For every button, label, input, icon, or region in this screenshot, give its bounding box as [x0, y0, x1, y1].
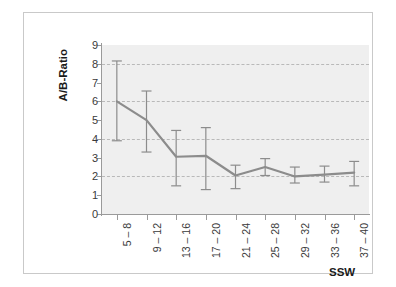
x-tick-label: 17 – 20 [210, 223, 222, 258]
y-axis-line [101, 43, 102, 216]
x-tick-label: 21 – 24 [240, 223, 252, 258]
gridline [102, 64, 369, 65]
x-tick-mark [206, 215, 207, 220]
x-tick-label: 9 – 12 [151, 223, 163, 252]
figure-frame: 0123456789 5 – 89 – 1213 – 1617 – 2021 –… [23, 12, 373, 274]
y-tick-label: 1 [76, 190, 98, 201]
y-tick-label: 5 [76, 115, 98, 126]
x-tick-mark [176, 215, 177, 220]
y-tick-label: 4 [76, 133, 98, 144]
y-tick-label: 9 [76, 40, 98, 51]
y-axis-tick-labels: 0123456789 [74, 13, 98, 287]
plot-area [102, 45, 369, 214]
x-tick-label: 37 – 40 [358, 223, 370, 258]
x-tick-mark [354, 215, 355, 220]
x-tick-mark [295, 215, 296, 220]
y-tick-label: 8 [76, 58, 98, 69]
x-tick-mark [236, 215, 237, 220]
y-axis-title: A/B-Ratio [57, 49, 69, 101]
x-tick-mark [147, 215, 148, 220]
x-tick-label: 5 – 8 [121, 223, 133, 246]
x-tick-mark [325, 215, 326, 220]
y-tick-label: 7 [76, 77, 98, 88]
x-tick-mark [265, 215, 266, 220]
y-tick-label: 0 [76, 209, 98, 220]
gridline [102, 139, 369, 140]
gridline [102, 176, 369, 177]
gridline [102, 101, 369, 102]
x-tick-label: 13 – 16 [180, 223, 192, 258]
x-tick-mark [117, 215, 118, 220]
y-tick-label: 6 [76, 96, 98, 107]
y-tick-label: 3 [76, 152, 98, 163]
x-tick-label: 25 – 28 [269, 223, 281, 258]
y-tick-label: 2 [76, 171, 98, 182]
x-tick-label: 29 – 32 [299, 223, 311, 258]
x-tick-label: 33 – 36 [329, 223, 341, 258]
x-axis-title: SSW [329, 266, 355, 278]
